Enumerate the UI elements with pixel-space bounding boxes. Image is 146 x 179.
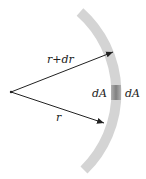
area-element-patch <box>111 85 121 100</box>
inner-radius-label: r <box>56 111 62 124</box>
outer-radius-label: r+dr <box>47 53 75 66</box>
area-label-left: dA <box>92 87 107 100</box>
annulus-diagram: r+dr r dA dA <box>0 0 146 179</box>
area-label-right: dA <box>125 87 140 100</box>
